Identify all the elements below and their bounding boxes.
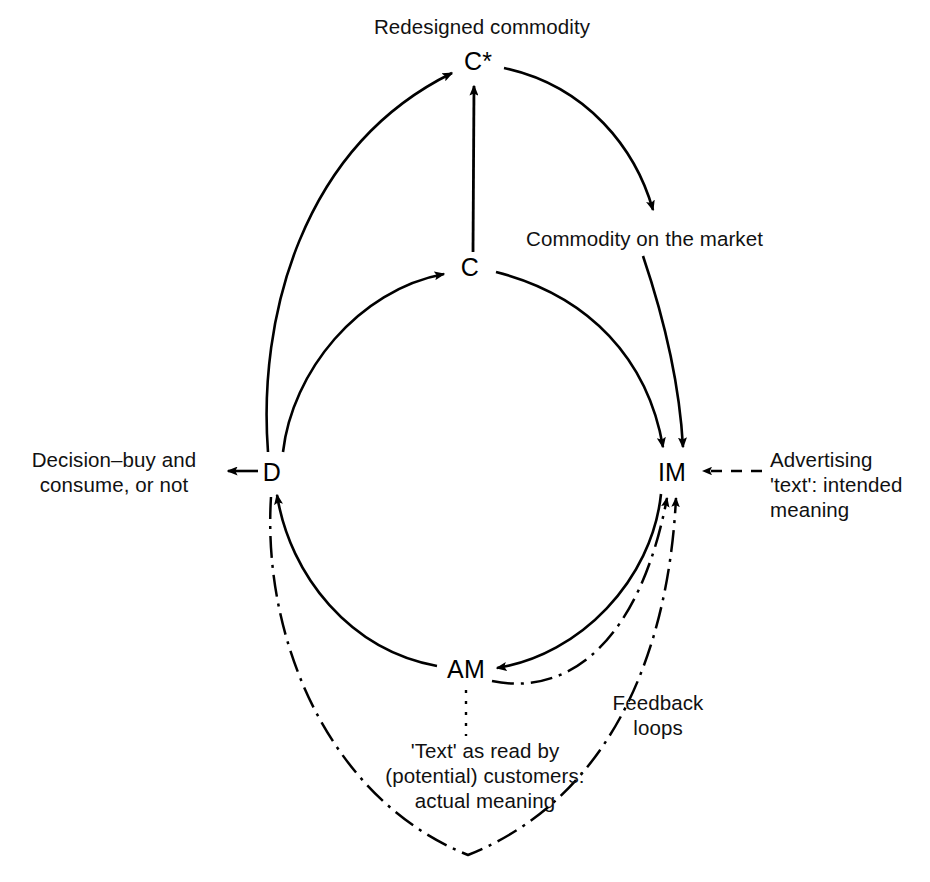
node-im[interactable]: IM — [658, 458, 686, 486]
edge-feedback-am-to-im — [492, 498, 667, 684]
node-am[interactable]: AM — [447, 655, 485, 683]
caption-commodity-on-the-market: Commodity on the market — [526, 226, 786, 251]
caption-advertising-text: Advertising 'text': intended meaning — [770, 447, 920, 522]
edge-d-to-c — [283, 274, 444, 452]
edge-c-to-cstar — [473, 86, 474, 252]
edge-c-to-im — [496, 272, 663, 447]
edge-im-to-am — [497, 494, 661, 668]
edge-market-to-im — [643, 256, 683, 447]
edge-d-to-cstar — [267, 73, 452, 452]
node-d[interactable]: D — [263, 458, 281, 486]
caption-redesigned-commodity: Redesigned commodity — [362, 14, 602, 39]
node-c[interactable]: C — [461, 253, 479, 281]
caption-decision: Decision–buy and consume, or not — [8, 447, 220, 497]
caption-actual-meaning: 'Text' as read by (potential) customers:… — [340, 738, 630, 813]
node-c-star[interactable]: C* — [464, 47, 492, 75]
diagram-canvas: C* C IM AM D Redesigned commodity Commod… — [0, 0, 930, 882]
edge-am-to-d — [277, 495, 437, 666]
caption-feedback-loops: Feedback loops — [588, 690, 728, 740]
edge-cstar-to-market-label — [504, 68, 653, 210]
